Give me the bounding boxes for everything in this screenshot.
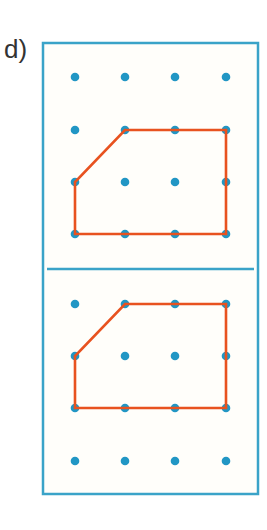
peg-dot — [121, 178, 130, 187]
peg-dot — [222, 73, 231, 82]
peg-dot — [171, 178, 180, 187]
peg-dot — [71, 73, 80, 82]
peg-dot — [171, 352, 180, 361]
peg-dot — [71, 126, 80, 135]
peg-dot — [71, 457, 80, 466]
peg-dot — [222, 457, 231, 466]
geoboard-figure — [0, 0, 267, 530]
peg-dot — [121, 457, 130, 466]
peg-dot — [121, 352, 130, 361]
peg-dot — [171, 457, 180, 466]
peg-dot — [171, 73, 180, 82]
peg-dot — [71, 300, 80, 309]
peg-dot — [121, 73, 130, 82]
